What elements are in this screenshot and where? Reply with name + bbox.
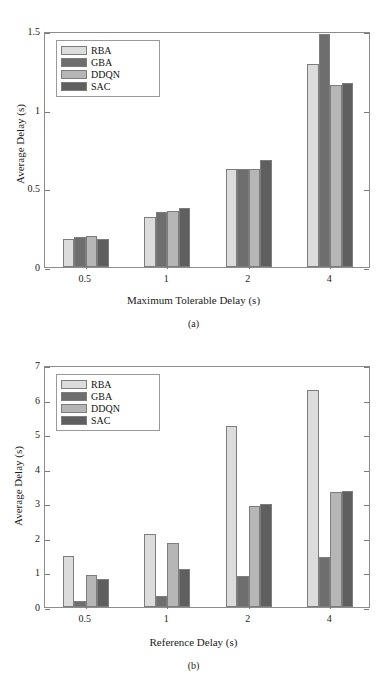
bar-b-gba-0.5[interactable] <box>74 601 85 607</box>
bar-a-sac-4[interactable] <box>342 83 353 267</box>
x-axis-title-a: Maximum Tolerable Delay (s) <box>0 294 387 306</box>
y-tick-label-b: 7 <box>35 361 40 371</box>
y-tick-label-a: 0 <box>35 263 40 273</box>
legend-item-gba[interactable]: GBA <box>61 391 155 402</box>
y-tick-label-a: 1 <box>35 106 40 116</box>
bar-group-a-2 <box>226 33 272 267</box>
bar-a-gba-0.5[interactable] <box>74 237 85 267</box>
bar-b-gba-4[interactable] <box>319 557 330 607</box>
y-tick-a <box>45 190 50 191</box>
figure-page: 00.511.5 0.5124 RBAGBADDQNSAC Average De… <box>0 0 387 686</box>
y-axis-title-a: Average Delay (s) <box>14 84 26 204</box>
bar-b-ddqn-2[interactable] <box>249 506 260 607</box>
bar-a-sac-2[interactable] <box>260 160 271 267</box>
y-tick-right-a <box>364 112 369 113</box>
legend-item-rba[interactable]: RBA <box>61 45 155 56</box>
legend-item-ddqn[interactable]: DDQN <box>61 69 155 80</box>
y-tick-b <box>45 471 50 472</box>
y-tick-b <box>45 505 50 506</box>
bar-a-rba-4[interactable] <box>307 64 318 267</box>
y-tick-label-b: 4 <box>35 465 40 475</box>
bar-a-rba-0.5[interactable] <box>63 239 74 267</box>
bar-b-ddqn-1[interactable] <box>167 543 178 607</box>
legend-item-sac[interactable]: SAC <box>61 415 155 426</box>
y-tick-b <box>45 402 50 403</box>
y-tick-b <box>45 540 50 541</box>
y-tick-label-a: 1.5 <box>28 27 41 37</box>
bar-a-ddqn-2[interactable] <box>249 169 260 267</box>
x-tick-a <box>330 264 331 269</box>
x-axis-title-b: Reference Delay (s) <box>0 636 387 648</box>
bar-b-gba-1[interactable] <box>156 596 167 607</box>
subfigure-b: 01234567 0.5124 RBAGBADDQNSAC Average De… <box>0 340 387 686</box>
legend-label-sac: SAC <box>91 416 110 426</box>
y-tick-right-b <box>364 609 369 610</box>
plot-area-a: 00.511.5 0.5124 RBAGBADDQNSAC <box>44 32 370 268</box>
bar-b-gba-2[interactable] <box>237 576 248 607</box>
x-tick-label-b: 2 <box>245 613 250 624</box>
legend-label-rba: RBA <box>91 380 112 390</box>
legend-swatch-sac-icon <box>61 82 87 91</box>
bar-b-sac-1[interactable] <box>179 569 190 607</box>
bar-b-rba-2[interactable] <box>226 426 237 608</box>
bar-a-rba-1[interactable] <box>144 217 155 267</box>
bar-group-b-2 <box>226 367 272 607</box>
x-tick-label-b: 4 <box>327 613 332 624</box>
x-tick-label-a: 4 <box>327 273 332 284</box>
bar-a-gba-2[interactable] <box>237 169 248 267</box>
y-tick-b <box>45 609 50 610</box>
legend-label-gba: GBA <box>91 58 112 68</box>
bar-a-ddqn-1[interactable] <box>167 211 178 267</box>
x-tick-a <box>249 264 250 269</box>
bar-a-sac-0.5[interactable] <box>97 239 108 267</box>
bar-b-rba-0.5[interactable] <box>63 556 74 607</box>
y-tick-label-b: 6 <box>35 396 40 406</box>
bar-b-rba-1[interactable] <box>144 534 155 607</box>
legend-item-ddqn[interactable]: DDQN <box>61 403 155 414</box>
bar-b-rba-4[interactable] <box>307 390 318 607</box>
bar-b-sac-4[interactable] <box>342 491 353 608</box>
bar-b-sac-0.5[interactable] <box>97 579 108 607</box>
legend-swatch-ddqn-icon <box>61 404 87 413</box>
subfigure-caption-b: (b) <box>0 660 387 671</box>
x-tick-label-a: 1 <box>164 273 169 284</box>
legend-swatch-gba-icon <box>61 58 87 67</box>
legend-swatch-sac-icon <box>61 416 87 425</box>
bar-a-ddqn-4[interactable] <box>330 85 341 268</box>
x-tick-a <box>86 264 87 269</box>
bar-a-gba-1[interactable] <box>156 212 167 267</box>
subfigure-a: 00.511.5 0.5124 RBAGBADDQNSAC Average De… <box>0 0 387 340</box>
legend-label-ddqn: DDQN <box>91 404 120 414</box>
legend-item-rba[interactable]: RBA <box>61 379 155 390</box>
bar-a-rba-2[interactable] <box>226 169 237 267</box>
y-tick-b <box>45 367 50 368</box>
y-tick-b <box>45 574 50 575</box>
legend-swatch-ddqn-icon <box>61 70 87 79</box>
legend-item-sac[interactable]: SAC <box>61 81 155 92</box>
y-axis-title-b: Average Delay (s) <box>12 426 24 546</box>
bar-b-ddqn-4[interactable] <box>330 492 341 607</box>
bar-group-a-3 <box>307 33 353 267</box>
legend-b: RBAGBADDQNSAC <box>56 374 160 431</box>
bar-b-sac-2[interactable] <box>260 504 271 607</box>
y-tick-right-b <box>364 505 369 506</box>
y-tick-right-a <box>364 190 369 191</box>
bar-a-sac-1[interactable] <box>179 208 190 267</box>
legend-item-gba[interactable]: GBA <box>61 57 155 68</box>
x-tick-b <box>167 604 168 609</box>
x-tick-label-b: 0.5 <box>79 613 92 624</box>
legend-label-ddqn: DDQN <box>91 70 120 80</box>
y-tick-label-b: 1 <box>35 568 40 578</box>
x-tick-label-b: 1 <box>164 613 169 624</box>
plot-area-b: 01234567 0.5124 RBAGBADDQNSAC <box>44 366 370 608</box>
bar-b-ddqn-0.5[interactable] <box>86 575 97 607</box>
y-tick-right-a <box>364 269 369 270</box>
y-tick-b <box>45 436 50 437</box>
legend-label-rba: RBA <box>91 46 112 56</box>
y-tick-right-b <box>364 402 369 403</box>
bar-a-ddqn-0.5[interactable] <box>86 236 97 267</box>
bar-a-gba-4[interactable] <box>319 34 330 267</box>
legend-swatch-rba-icon <box>61 46 87 55</box>
y-tick-right-b <box>364 540 369 541</box>
x-tick-label-a: 0.5 <box>79 273 92 284</box>
